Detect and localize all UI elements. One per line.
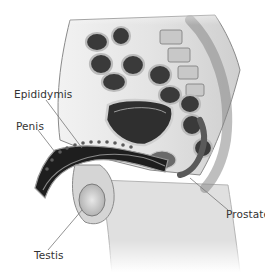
leader-penis	[38, 130, 55, 152]
testis	[79, 184, 105, 216]
label-epididymis: Epididymis	[14, 88, 72, 100]
leader-testis	[48, 210, 82, 250]
label-penis: Penis	[16, 120, 44, 132]
anatomy-illustration: Epididymis Penis Prostate Testis	[0, 0, 265, 272]
pelvis-cross-section-drawing	[0, 0, 265, 272]
label-prostate: Prostate	[226, 208, 265, 220]
label-testis: Testis	[34, 249, 64, 261]
